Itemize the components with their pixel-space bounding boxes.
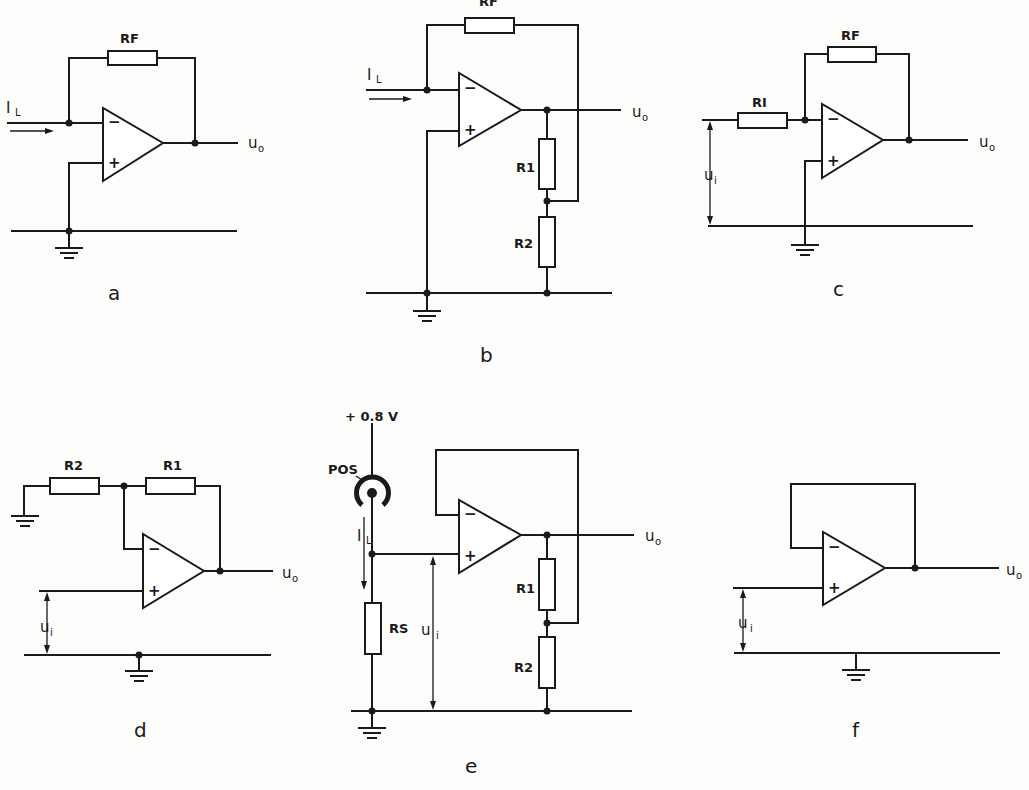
svg-text:o: o [989, 142, 995, 153]
caption-c: c [833, 277, 844, 301]
svg-text:u: u [632, 103, 642, 121]
resistor-r1 [539, 559, 555, 610]
svg-text:u: u [282, 564, 292, 582]
svg-text:R1: R1 [516, 581, 535, 596]
svg-text:POS: POS [328, 462, 358, 477]
label-rf: RF [120, 31, 139, 46]
caption-e: e [465, 754, 477, 778]
svg-text:−: − [464, 79, 477, 97]
ground-icon [792, 245, 818, 255]
svg-text:−: − [464, 505, 477, 523]
svg-text:u: u [248, 134, 258, 152]
caption-f: f [852, 718, 860, 742]
svg-text:RF: RF [479, 0, 498, 9]
svg-text:RS: RS [389, 621, 408, 636]
svg-text:RF: RF [841, 28, 860, 43]
svg-text:R2: R2 [64, 458, 83, 473]
panel-e: + 0.8 V POS RS I L − + u o R1 R [328, 409, 661, 778]
svg-text:I: I [367, 66, 371, 84]
svg-text:I: I [357, 527, 361, 545]
panel-a: RF I L − + u o a [6, 31, 264, 305]
svg-text:RI: RI [752, 95, 767, 110]
resistor-rf [828, 47, 876, 62]
caption-a: a [108, 281, 120, 305]
resistor-r2 [50, 478, 99, 494]
panel-c: RI RF − + u o u i c [703, 28, 995, 301]
resistor-rf [465, 18, 514, 33]
svg-text:o: o [642, 112, 648, 123]
svg-text:i: i [50, 627, 53, 638]
svg-text:o: o [292, 573, 298, 584]
svg-text:u: u [645, 527, 655, 545]
resistor-r2 [539, 637, 555, 688]
svg-text:i: i [714, 175, 717, 186]
svg-text:o: o [1016, 570, 1022, 581]
ground-icon [126, 671, 152, 681]
label-input-current: I [6, 99, 10, 117]
resistor-r1 [146, 478, 195, 494]
resistor-rf [108, 51, 157, 65]
svg-text:R1: R1 [163, 458, 182, 473]
resistor-r1 [539, 139, 555, 189]
svg-text:i: i [436, 630, 439, 641]
svg-text:i: i [750, 623, 753, 634]
resistor-ri [738, 113, 787, 128]
svg-text:+: + [464, 121, 477, 139]
label-bias-voltage: + 0.8 V [345, 409, 398, 424]
ground-icon [359, 728, 385, 738]
panel-f: − + u o u i f [734, 484, 1022, 742]
svg-text:o: o [258, 143, 264, 154]
panel-b: RF I L − + u o R1 R2 b [367, 0, 648, 367]
svg-text:u: u [704, 166, 714, 184]
svg-text:−: − [828, 538, 841, 556]
resistor-r2 [539, 217, 555, 267]
svg-text:L: L [376, 74, 382, 85]
svg-text:u: u [979, 133, 989, 151]
svg-text:−: − [827, 110, 840, 128]
svg-text:+: + [828, 579, 841, 597]
caption-b: b [480, 343, 493, 367]
svg-text:+: + [108, 154, 121, 172]
svg-text:R1: R1 [516, 160, 535, 175]
svg-text:+: + [827, 152, 840, 170]
svg-text:u: u [1006, 561, 1016, 579]
ground-icon [56, 248, 82, 258]
svg-text:+: + [464, 547, 477, 565]
svg-text:L: L [366, 535, 372, 546]
svg-text:−: − [108, 113, 121, 131]
svg-text:L: L [15, 107, 21, 118]
svg-text:u: u [421, 621, 431, 639]
svg-text:R2: R2 [514, 236, 533, 251]
ground-icon [843, 670, 869, 680]
svg-text:u: u [40, 618, 50, 636]
svg-text:−: − [148, 540, 161, 558]
panel-d: R2 R1 − + u o u i d [12, 458, 298, 742]
svg-text:+: + [148, 582, 161, 600]
resistor-rs [365, 603, 381, 654]
ground-icon [12, 516, 38, 526]
svg-text:o: o [655, 536, 661, 547]
svg-text:u: u [738, 614, 748, 632]
op-amp-circuits-figure: RF I L − + u o a RF [0, 0, 1029, 790]
svg-text:R2: R2 [514, 660, 533, 675]
ground-icon [414, 311, 440, 321]
caption-d: d [134, 718, 147, 742]
